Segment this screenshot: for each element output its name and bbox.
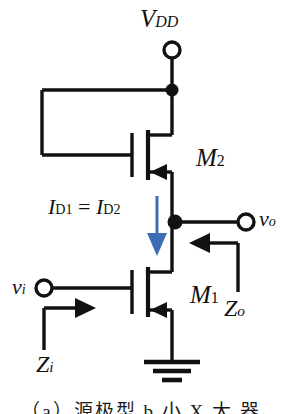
current-right-sub: D2 [103, 201, 120, 217]
label-m2-base: M [196, 144, 217, 171]
current-operator: = [78, 194, 90, 219]
label-vdd-base: V [140, 5, 155, 32]
vi-terminal-circle [36, 280, 52, 296]
label-vdd: VDD [140, 6, 178, 31]
current-arrow-head [147, 233, 167, 256]
vo-terminal-circle [238, 214, 254, 230]
label-zo-sub: o [237, 302, 245, 319]
label-input-voltage: vi [12, 276, 26, 298]
output-branch [168, 214, 255, 230]
zi-indicator [44, 298, 96, 350]
drain-current-arrow-icon [147, 196, 167, 256]
label-m2-sub: 2 [217, 152, 225, 169]
label-m1-sub: 1 [211, 289, 219, 306]
diode-connection-loop [42, 90, 172, 155]
label-vi-sub: i [22, 281, 26, 297]
ground-symbol-icon [144, 362, 200, 380]
label-zo-base: Z [224, 295, 237, 321]
label-output-impedance: Zo [224, 296, 245, 320]
label-vdd-sub: DD [155, 13, 178, 30]
label-zi-base: Z [36, 351, 49, 377]
label-input-impedance: Zi [36, 352, 54, 376]
label-drain-current-equation: ID1 = ID2 [48, 196, 121, 218]
current-left-sub: D1 [55, 201, 72, 217]
output-junction-dot [168, 215, 183, 230]
circuit-figure: VDD M2 M1 ID1 = ID2 vo vi Zo Zi （a）源极型 b… [0, 0, 282, 414]
m2-source-arrow-icon [150, 164, 167, 180]
transistor-m2 [132, 90, 172, 222]
label-vi-base: v [12, 274, 22, 299]
label-zi-sub: i [49, 358, 53, 375]
label-m2: M2 [196, 145, 225, 170]
zi-arrow-head-icon [75, 298, 96, 318]
label-m1: M1 [190, 282, 219, 307]
vdd-terminal-circle [164, 42, 180, 58]
label-m1-base: M [190, 281, 211, 308]
m1-source-arrow-icon [150, 302, 167, 318]
label-vo-sub: o [269, 213, 276, 229]
zo-arrow-head-icon [189, 233, 210, 253]
label-vo-base: v [259, 206, 269, 231]
figure-caption: （a）源极型 b 小 X 大 器 [0, 396, 282, 414]
input-branch [36, 280, 52, 296]
label-output-voltage: vo [259, 208, 276, 230]
